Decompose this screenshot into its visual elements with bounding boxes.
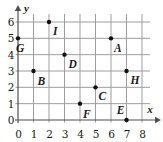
x-tick-label: 3 [62, 128, 69, 140]
point-B [31, 69, 35, 73]
y-axis-label: y [22, 2, 29, 14]
y-tick-label: 1 [8, 98, 15, 110]
point-label-B: B [37, 75, 46, 87]
point-label-E: E [116, 104, 125, 116]
point-H [124, 69, 128, 73]
x-tick-label: 0 [15, 128, 22, 140]
point-label-H: H [130, 74, 141, 86]
point-F [78, 101, 82, 105]
point-label-D: D [68, 58, 78, 70]
point-I [47, 20, 51, 24]
x-axis-arrow [155, 117, 161, 123]
x-tick-label: 1 [31, 128, 38, 140]
coordinate-grid: xy0123456780123456ABCDEFGHI [0, 0, 163, 142]
y-tick-label: 4 [8, 49, 15, 61]
x-tick-label: 8 [139, 128, 146, 140]
point-label-I: I [52, 25, 58, 37]
point-E [124, 118, 128, 122]
figure-canvas: xy0123456780123456ABCDEFGHI [0, 0, 163, 142]
point-label-G: G [16, 42, 25, 54]
x-tick-label: 6 [108, 128, 115, 140]
point-label-A: A [113, 42, 122, 54]
y-tick-label: 3 [8, 65, 15, 77]
point-label-F: F [82, 108, 91, 120]
x-tick-label: 7 [124, 128, 131, 140]
y-axis-arrow [15, 5, 21, 11]
x-tick-label: 2 [46, 128, 53, 140]
y-tick-label: 0 [8, 114, 15, 126]
x-axis-label: x [146, 103, 153, 115]
point-label-C: C [99, 90, 107, 102]
point-A [109, 36, 113, 40]
point-C [93, 85, 97, 89]
y-tick-label: 2 [8, 81, 15, 93]
y-tick-label: 5 [8, 32, 15, 44]
x-tick-label: 4 [77, 128, 84, 140]
x-tick-label: 5 [93, 128, 100, 140]
y-tick-label: 6 [8, 16, 15, 28]
point-D [62, 52, 66, 56]
point-G [16, 36, 20, 40]
